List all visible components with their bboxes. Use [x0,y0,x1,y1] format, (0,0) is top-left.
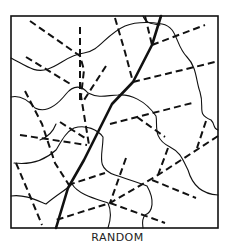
tributary-stream [20,135,87,145]
main-stream-line [56,16,161,228]
tributary-streams [16,16,218,225]
random-drainage-diagram [0,0,235,250]
tributary-stream [137,117,165,137]
tributary-stream [56,136,218,220]
tributary-stream [152,180,196,198]
tributary-stream [16,163,42,225]
contour-line [11,22,218,130]
tributary-stream [110,158,126,203]
tributary-stream [25,91,69,185]
tributary-stream [84,66,106,100]
tributary-stream [110,203,165,223]
diagram-caption: RANDOM [0,231,235,244]
tributary-stream [115,18,133,82]
contour-line [14,127,152,228]
main-stream [56,16,161,228]
tributary-stream [26,57,72,85]
contour-line [11,184,110,228]
tributary-stream [133,62,215,82]
tributary-stream [145,16,152,45]
tributary-stream [110,103,192,124]
tributary-stream [158,148,168,175]
